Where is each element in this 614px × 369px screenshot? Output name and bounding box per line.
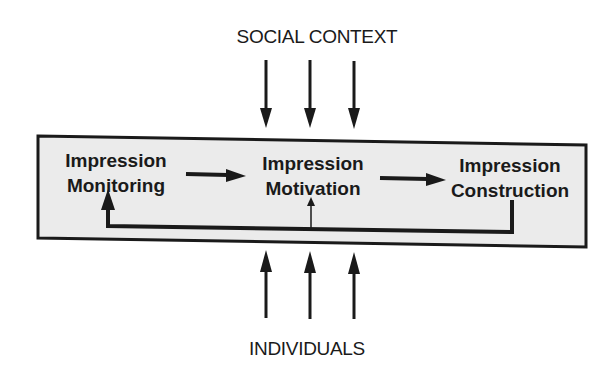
node-monitoring-line1: Impression bbox=[46, 148, 186, 173]
node-motivation-line1: Impression bbox=[244, 151, 382, 176]
individuals-label: INDIVIDUALS bbox=[0, 338, 614, 360]
node-impression-motivation: Impression Motivation bbox=[244, 151, 382, 201]
individuals-arrows bbox=[260, 250, 360, 319]
node-monitoring-line2: Monitoring bbox=[46, 173, 186, 198]
node-impression-construction: Impression Construction bbox=[440, 153, 580, 203]
social-context-label: SOCIAL CONTEXT bbox=[10, 26, 614, 48]
node-motivation-line2: Motivation bbox=[244, 176, 382, 201]
node-construction-line2: Construction bbox=[440, 178, 580, 203]
node-construction-line1: Impression bbox=[440, 153, 580, 178]
social-context-arrows bbox=[260, 60, 360, 129]
node-impression-monitoring: Impression Monitoring bbox=[46, 148, 186, 198]
